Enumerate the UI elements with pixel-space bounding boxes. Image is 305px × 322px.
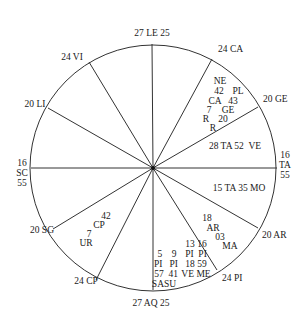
planet-label: PL: [232, 86, 243, 96]
planet-label: PI PI: [154, 259, 178, 269]
planet-label: VE ME: [181, 269, 210, 279]
cusp-line: [89, 62, 153, 168]
cusp-label: 16: [17, 158, 27, 168]
cusp-label: 27 LE 25: [134, 28, 170, 38]
cusp-label: TA: [279, 160, 291, 170]
planet-label: 20: [218, 114, 228, 124]
planet-label: SASU: [152, 279, 176, 289]
planet-label: NE: [214, 76, 227, 86]
cusp-label: SC: [16, 168, 28, 178]
cusp-label: 24 PI: [222, 273, 242, 283]
cusp-label: 24 VI: [61, 52, 83, 62]
planet-label: PI PI: [185, 249, 207, 259]
planet-label: CP: [93, 220, 105, 230]
cusp-label: 27 AQ 25: [133, 298, 170, 308]
planet-label: 13 16: [185, 239, 207, 249]
planet-label: 5 9: [158, 249, 177, 259]
planet-label: 42: [214, 86, 224, 96]
natal-chart-wheel: 27 LE 2524 CA20 GE1620 AR24 PI27 AQ 2524…: [0, 0, 305, 322]
planet-label: 18 59: [185, 259, 207, 269]
cusp-label: 55: [280, 170, 290, 180]
chart-center-dot: [151, 166, 155, 170]
planet-label: 15 TA 35 MO: [213, 183, 266, 193]
cusp-label: 20 GE: [263, 94, 288, 104]
cusp-label: 20 LI: [25, 99, 46, 109]
planet-label: 18: [202, 213, 212, 223]
cusp-label: 24 CA: [218, 44, 243, 54]
cusp-label: 20 AR: [262, 230, 287, 240]
cusp-label: 20 SG: [30, 225, 54, 235]
cusp-label: 16: [280, 150, 290, 160]
planet-label: 57 41: [154, 269, 178, 279]
planet-label: 28 TA 52 VE: [209, 141, 261, 151]
planet-label: R: [203, 114, 210, 124]
cusp-label: 55: [17, 178, 27, 188]
planet-label: R: [210, 123, 217, 133]
planet-label: MA: [222, 241, 237, 251]
cusp-line: [152, 44, 153, 168]
cusp-label: 24 CP: [74, 276, 98, 286]
cusp-line: [48, 108, 153, 168]
planet-label: UR: [79, 238, 93, 248]
